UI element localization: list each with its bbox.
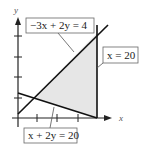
label-c2: x = 20 xyxy=(103,47,138,63)
svg-text:x = 20: x = 20 xyxy=(107,49,136,61)
label-c3: x + 2y = 20 xyxy=(24,128,79,143)
x-axis-label: x xyxy=(118,113,123,123)
x-axis-arrow-icon xyxy=(104,115,112,121)
label-c1: −3x + 2y = 4 xyxy=(26,18,94,33)
leader-c2 xyxy=(97,63,103,68)
leader-c1 xyxy=(58,33,74,52)
diagram-canvas: y x −3x + 2y = 4 x = 20 x + 2y = 20 xyxy=(0,0,150,153)
svg-text:x + 2y = 20: x + 2y = 20 xyxy=(28,129,79,141)
y-axis-label: y xyxy=(13,5,18,15)
svg-text:−3x + 2y = 4: −3x + 2y = 4 xyxy=(30,19,88,31)
y-axis-arrow-icon xyxy=(15,17,21,25)
